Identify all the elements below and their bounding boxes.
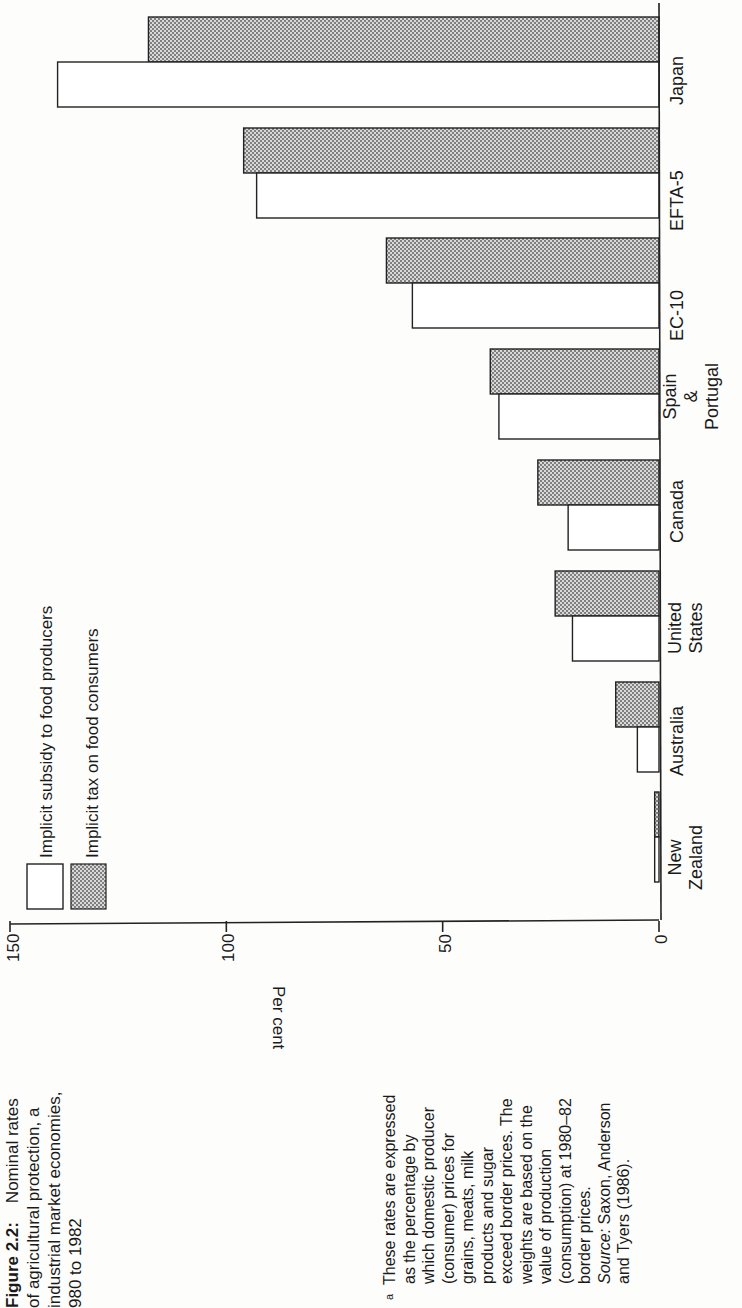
category-label-ec10: EC-10 bbox=[667, 290, 688, 341]
bar-subsidy-canada bbox=[568, 505, 659, 550]
value-axis-line bbox=[10, 920, 659, 924]
bar-tax-ec-10 bbox=[386, 238, 659, 283]
tick-label-0: 0 bbox=[652, 935, 672, 944]
category-label-australia: Australia bbox=[667, 706, 688, 776]
category-label-spain-portugal: Spain & Portugal bbox=[660, 363, 723, 430]
category-label-efta5: EFTA-5 bbox=[667, 170, 688, 231]
legend-swatch-tax bbox=[71, 864, 106, 909]
tick-label-50: 50 bbox=[436, 934, 456, 953]
category-label-canada: Canada bbox=[667, 480, 688, 543]
category-label-japan: Japan bbox=[667, 56, 688, 105]
bars-group bbox=[58, 17, 659, 882]
source-label: Source: bbox=[596, 1229, 613, 1284]
bar-subsidy-spain-portugal bbox=[499, 394, 659, 439]
bar-tax-spain-portugal bbox=[490, 349, 659, 394]
bar-subsidy-japan bbox=[58, 62, 659, 107]
bar-tax-canada bbox=[538, 460, 659, 505]
legend-label-tax: Implicit tax on food consumers bbox=[83, 628, 103, 858]
category-axis-line bbox=[659, 3, 661, 920]
bar-tax-japan bbox=[148, 17, 659, 62]
bar-tax-efta-5 bbox=[244, 128, 659, 173]
category-label-united-states: United States bbox=[665, 602, 707, 654]
tick-label-150: 150 bbox=[4, 934, 24, 962]
category-label-new-zealand: New Zealand bbox=[665, 825, 707, 890]
legend-label-subsidy: Implicit subsidy to food producers bbox=[37, 606, 57, 858]
bar-subsidy-new-zealand bbox=[655, 837, 659, 882]
bar-tax-united-states bbox=[555, 571, 659, 616]
legend-swatch-subsidy bbox=[27, 864, 63, 909]
tick-label-100: 100 bbox=[219, 934, 239, 962]
bar-tax-new-zealand bbox=[655, 792, 659, 837]
footnote: a These rates are expressed as the perce… bbox=[380, 1095, 634, 1300]
bar-tax-australia bbox=[616, 682, 659, 727]
bar-subsidy-efta-5 bbox=[257, 173, 659, 218]
bar-subsidy-australia bbox=[637, 727, 659, 772]
figure-caption: Figure 2.2: Nominal rates of agricultura… bbox=[2, 1092, 86, 1308]
bar-subsidy-united-states bbox=[572, 616, 659, 661]
bar-subsidy-ec-10 bbox=[412, 283, 659, 328]
axis-title: Per cent bbox=[268, 986, 288, 1006]
figure-label: Figure 2.2: bbox=[3, 1222, 22, 1308]
